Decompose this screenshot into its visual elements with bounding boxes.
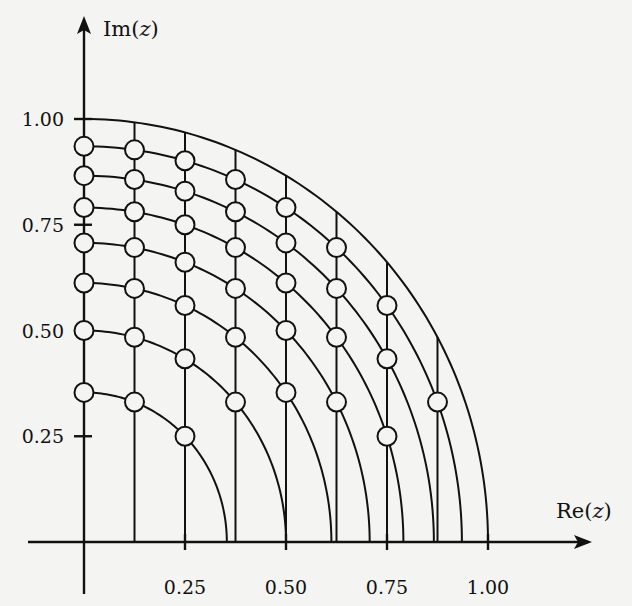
pole-marker-circle-icon — [327, 393, 346, 412]
pole-grid-diagram: 0.250.500.751.000.250.500.751.00 Im(z) R… — [0, 0, 632, 606]
radius-arc — [84, 392, 227, 542]
pole-marker-circle-icon — [226, 238, 245, 257]
pole-marker-circle-icon — [75, 383, 94, 402]
axis-ticks: 0.250.500.751.000.250.500.751.00 — [22, 108, 509, 598]
y-axis-title: Im(z) — [103, 17, 159, 41]
pole-marker-circle-icon — [125, 393, 144, 412]
pole-marker-circle-icon — [125, 140, 144, 159]
pole-marker-circle-icon — [75, 137, 94, 156]
x-tick-label: 0.50 — [265, 576, 307, 598]
pole-marker-circle-icon — [277, 233, 296, 252]
pole-marker-circle-icon — [176, 427, 195, 446]
pole-marker-circle-icon — [125, 170, 144, 189]
pole-marker-circle-icon — [378, 296, 397, 315]
pole-marker-circle-icon — [176, 296, 195, 315]
pole-marker-circle-icon — [75, 233, 94, 252]
pole-marker-circle-icon — [125, 238, 144, 257]
pole-marker-circle-icon — [226, 170, 245, 189]
pole-marker-circle-icon — [75, 166, 94, 185]
x-tick-label: 0.25 — [164, 576, 206, 598]
pole-marker-circle-icon — [125, 202, 144, 221]
pole-marker-circle-icon — [327, 238, 346, 257]
pole-marker-circle-icon — [125, 279, 144, 298]
pole-marker-circle-icon — [327, 279, 346, 298]
x-tick-label: 0.75 — [366, 576, 408, 598]
pole-marker-circle-icon — [226, 279, 245, 298]
pole-marker-circle-icon — [277, 321, 296, 340]
y-tick-label: 0.75 — [22, 214, 64, 236]
pole-marker-circle-icon — [277, 383, 296, 402]
x-tick-label: 1.00 — [467, 576, 509, 598]
y-tick-label: 0.25 — [22, 425, 64, 447]
pole-marker-circle-icon — [75, 198, 94, 217]
pole-marker-circle-icon — [176, 151, 195, 170]
pole-marker-circle-icon — [75, 321, 94, 340]
radius-arc — [84, 283, 331, 542]
x-axis-title: Re(z) — [556, 499, 612, 523]
pole-marker-circle-icon — [378, 427, 397, 446]
pole-marker-circle-icon — [277, 198, 296, 217]
pole-marker-circle-icon — [176, 182, 195, 201]
pole-marker-circle-icon — [226, 328, 245, 347]
pole-marker-circle-icon — [176, 253, 195, 272]
quantized-pole-markers — [75, 137, 448, 446]
y-tick-label: 1.00 — [22, 108, 64, 130]
pole-marker-circle-icon — [378, 349, 397, 368]
pole-marker-circle-icon — [428, 393, 447, 412]
pole-marker-circle-icon — [327, 328, 346, 347]
pole-marker-circle-icon — [226, 393, 245, 412]
pole-marker-circle-icon — [125, 328, 144, 347]
y-tick-label: 0.50 — [22, 320, 64, 342]
pole-marker-circle-icon — [176, 215, 195, 234]
pole-marker-circle-icon — [75, 273, 94, 292]
pole-marker-circle-icon — [277, 273, 296, 292]
pole-marker-circle-icon — [226, 202, 245, 221]
pole-marker-circle-icon — [176, 349, 195, 368]
